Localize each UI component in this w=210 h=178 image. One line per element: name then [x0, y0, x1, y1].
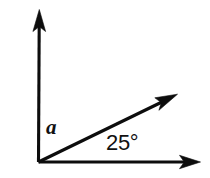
angle-diagram-canvas: a 25°	[0, 0, 210, 178]
vertical-ray-line	[39, 25, 40, 162]
angle-diagram-svg	[0, 0, 210, 178]
angle-label-25-degrees: 25°	[106, 132, 138, 154]
vertical-ray	[33, 10, 46, 163]
angle-label-a: a	[46, 117, 57, 138]
horizontal-ray	[39, 155, 201, 168]
diagonal-ray-line	[39, 101, 165, 162]
